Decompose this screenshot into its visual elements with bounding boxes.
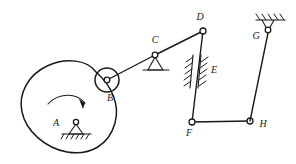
- roller-b-center-pin: [104, 77, 110, 83]
- link-h-g: [250, 33, 268, 121]
- cam-body-group: [21, 61, 116, 153]
- mechanism-diagram: A B C D E F G H: [0, 0, 296, 164]
- link-b-c: [107, 55, 155, 80]
- slider-guide-e: [184, 55, 208, 88]
- label-g: G: [252, 30, 259, 41]
- pin-joint-a: [73, 119, 78, 124]
- mechanism-svg: A B C D E F G H: [0, 0, 296, 164]
- label-d: D: [195, 11, 204, 22]
- support-a-hatching: [61, 134, 89, 139]
- pin-joint-f: [189, 119, 195, 125]
- label-a: A: [52, 117, 60, 128]
- ground-support-g: [256, 14, 285, 33]
- link-c-d: [155, 31, 203, 55]
- support-g-hatching: [256, 14, 284, 20]
- pin-joint-g: [265, 27, 271, 33]
- label-f: F: [185, 127, 193, 138]
- slider-e-rail-left: [190, 55, 193, 88]
- ground-support-c: [143, 52, 169, 70]
- link-f-h-group: [189, 118, 253, 125]
- label-b: B: [107, 92, 113, 103]
- label-c: C: [152, 34, 159, 45]
- roller-b-group: [95, 68, 119, 92]
- link-f-h: [192, 121, 250, 122]
- link-h-g-group: [250, 33, 268, 121]
- label-e: E: [210, 64, 217, 75]
- link-d-f: [192, 31, 203, 122]
- support-a-triangle: [69, 124, 83, 134]
- cam-profile-path: [21, 61, 116, 153]
- label-h: H: [258, 118, 267, 129]
- support-c-triangle: [148, 57, 163, 70]
- ground-support-a: [61, 119, 91, 139]
- pin-joint-c: [152, 52, 158, 58]
- pin-joint-d: [200, 28, 206, 34]
- rotation-arrow-group: [48, 95, 85, 109]
